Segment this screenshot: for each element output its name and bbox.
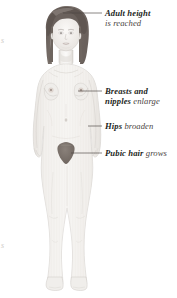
label-pubic-hair: Pubic hair grows xyxy=(105,148,167,158)
label-adult-height: Adult height is reached xyxy=(105,8,150,28)
label-breasts-line1: Breasts and xyxy=(105,86,148,96)
label-hips-broaden: Hips broaden xyxy=(105,121,153,131)
label-breasts-nipples: Breasts and nipples enlarge xyxy=(105,86,160,106)
label-adult-height-line2: is reached xyxy=(105,18,150,28)
label-hips-strong: Hips xyxy=(105,121,122,131)
edge-fragment-top: s xyxy=(1,36,4,45)
label-pubic-strong: Pubic hair xyxy=(105,148,143,158)
label-adult-height-line1: Adult height xyxy=(105,8,150,18)
feet xyxy=(46,277,87,291)
edge-fragment-bottom: s xyxy=(1,241,4,250)
diagram-canvas: Adult height is reached Breasts and nipp… xyxy=(0,0,177,298)
label-hips-light: broaden xyxy=(124,121,153,131)
label-breasts-line2-strong: nipples xyxy=(105,96,131,106)
label-breasts-line2: nipples enlarge xyxy=(105,96,160,106)
label-pubic-light: grows xyxy=(146,148,167,158)
label-breasts-line2-light: enlarge xyxy=(133,96,160,106)
